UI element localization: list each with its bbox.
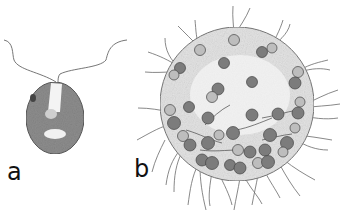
eyespot	[30, 94, 36, 102]
diagram-canvas	[0, 0, 351, 224]
flagellum-left	[4, 40, 56, 82]
panel-label-a: a	[7, 160, 22, 184]
panel-b-colony	[137, 6, 340, 210]
nucleus	[44, 129, 66, 139]
panel-label-b: b	[134, 157, 149, 181]
flagellum-right	[58, 40, 127, 83]
panel-a-cell	[4, 40, 127, 154]
pyrenoid	[45, 109, 57, 119]
figure: a b	[0, 0, 351, 224]
